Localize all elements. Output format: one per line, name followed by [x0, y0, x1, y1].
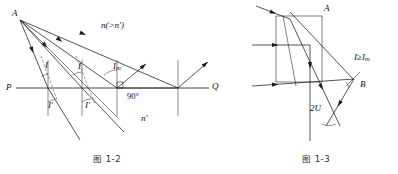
figure-sheet: A P Q n(>n') n' 90° I I Im I' I' 图 1-2	[0, 0, 398, 174]
figure-1-3: A B I≥Im 2U 图 1-3	[250, 0, 398, 174]
arrowhead-incoming-bottom	[272, 82, 279, 87]
label-condition-i-ge-im: I≥Im	[354, 53, 370, 63]
label-angle-refraction-1: I'	[48, 101, 53, 110]
label-vertex-b: B	[360, 80, 366, 89]
figure-1-2-drawing	[0, 0, 250, 150]
arrowhead-incident-4	[79, 31, 87, 37]
label-axis-p: P	[6, 83, 12, 92]
label-vertex-a: A	[324, 4, 330, 13]
label-angle-refraction-2: I'	[85, 101, 90, 110]
label-angle-incidence-2: I	[78, 62, 81, 71]
label-angle-incidence-1: I	[45, 61, 48, 70]
prism-slant-edge	[283, 16, 296, 86]
refracted-ray-2	[82, 88, 124, 132]
label-angle-2u: 2U	[310, 104, 321, 113]
label-axis-q: Q	[212, 82, 219, 91]
caption-figure-1-2: 图 1-2	[93, 152, 121, 164]
arrowhead-internal-from-a	[318, 83, 325, 91]
label-right-angle: 90°	[127, 92, 139, 101]
arrowhead-incoming-top	[269, 9, 277, 15]
arrowhead-internal-from-b	[336, 100, 343, 108]
label-condition-limit-subscript: m	[365, 55, 370, 62]
arrowhead-incident-1	[29, 46, 35, 54]
figure-1-2: A P Q n(>n') n' 90° I I Im I' I' 图 1-2	[0, 0, 250, 174]
label-angle-critical-subscript: m	[116, 64, 121, 71]
dashed-construction-1	[41, 56, 57, 100]
label-source-point-a: A	[12, 9, 18, 18]
incoming-ray-bottom	[252, 79, 354, 86]
label-medium-lower: n'	[141, 114, 147, 123]
arrowhead-incoming-middle	[272, 43, 279, 47]
refracted-ray-1	[48, 88, 80, 140]
extended-ray-line	[20, 20, 118, 118]
label-angle-critical: Im	[113, 62, 121, 72]
angle-arc-at-b	[346, 82, 349, 88]
caption-figure-1-3: 图 1-3	[302, 152, 330, 164]
label-medium-upper: n(>n')	[101, 21, 124, 30]
incident-ray-2	[20, 20, 82, 88]
figure-1-3-drawing	[250, 0, 398, 150]
incident-ray-3	[20, 20, 117, 88]
angle-arc-2u	[322, 124, 336, 126]
